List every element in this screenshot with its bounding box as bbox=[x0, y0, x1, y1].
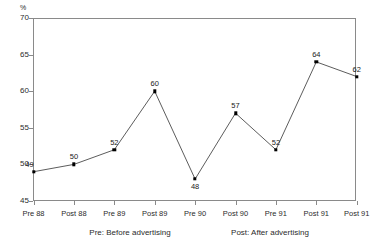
y-tick-mark-45 bbox=[29, 201, 33, 202]
data-point-marker bbox=[153, 89, 156, 92]
data-point-marker bbox=[32, 170, 35, 173]
y-tick-mark-60 bbox=[29, 91, 33, 92]
x-tick-mark-8 bbox=[357, 201, 358, 205]
x-tick-mark-7 bbox=[316, 201, 317, 205]
x-tick-mark-2 bbox=[114, 201, 115, 205]
caption-pre: Pre: Before advertising bbox=[60, 228, 200, 238]
line-chart: % 455055606570 Pre 88Post 88Pre 89Post 8… bbox=[0, 0, 372, 249]
data-point-marker bbox=[355, 75, 358, 78]
data-point-marker bbox=[193, 177, 196, 180]
data-point-label: 50 bbox=[62, 153, 86, 161]
data-point-label: 48 bbox=[183, 183, 207, 191]
x-tick-label-5: Post 90 bbox=[213, 209, 259, 218]
data-point-marker bbox=[234, 111, 237, 114]
x-tick-mark-4 bbox=[195, 201, 196, 205]
data-point-label: 57 bbox=[224, 102, 248, 110]
x-tick-mark-6 bbox=[276, 201, 277, 205]
data-point-label: 49 bbox=[18, 161, 42, 169]
y-tick-label-60: 60 bbox=[7, 87, 29, 95]
data-point-label: 52 bbox=[264, 139, 288, 147]
x-tick-mark-1 bbox=[74, 201, 75, 205]
x-tick-label-2: Pre 89 bbox=[91, 209, 137, 218]
x-tick-mark-0 bbox=[34, 201, 35, 205]
y-tick-label-65: 65 bbox=[7, 51, 29, 59]
data-point-marker bbox=[315, 60, 318, 63]
y-tick-mark-70 bbox=[29, 18, 33, 19]
y-tick-label-55: 55 bbox=[7, 124, 29, 132]
y-tick-mark-65 bbox=[29, 55, 33, 56]
data-point-marker bbox=[274, 148, 277, 151]
y-tick-label-70: 70 bbox=[7, 14, 29, 22]
data-point-label: 64 bbox=[304, 51, 328, 59]
x-tick-label-4: Pre 90 bbox=[172, 209, 218, 218]
x-tick-label-3: Post 89 bbox=[132, 209, 178, 218]
data-point-label: 62 bbox=[345, 66, 369, 74]
data-point-label: 60 bbox=[143, 80, 167, 88]
x-tick-mark-5 bbox=[236, 201, 237, 205]
x-tick-label-8: Post 91 bbox=[334, 209, 372, 218]
x-tick-label-7: Post 91 bbox=[293, 209, 339, 218]
x-tick-label-0: Pre 88 bbox=[11, 209, 57, 218]
data-point-marker bbox=[72, 163, 75, 166]
plot-area bbox=[33, 18, 356, 201]
data-point-marker bbox=[113, 148, 116, 151]
x-tick-mark-3 bbox=[155, 201, 156, 205]
x-tick-label-1: Post 88 bbox=[51, 209, 97, 218]
y-tick-label-45: 45 bbox=[7, 197, 29, 205]
caption-post: Post: After advertising bbox=[200, 228, 340, 238]
y-tick-mark-55 bbox=[29, 128, 33, 129]
x-tick-label-6: Pre 91 bbox=[253, 209, 299, 218]
data-point-label: 52 bbox=[102, 139, 126, 147]
